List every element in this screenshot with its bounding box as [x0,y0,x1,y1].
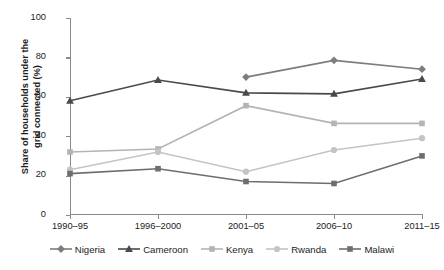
x-tick-label: 2006–10 [294,221,374,231]
data-point-rwanda [331,147,337,153]
legend-label: Malawi [364,244,394,255]
legend-item-cameroon[interactable]: Cameroon [118,243,188,255]
series-lines [70,18,422,215]
legend-label: Cameroon [143,244,188,255]
data-point-malawi [243,179,249,185]
data-point-cameroon [418,75,426,82]
legend-item-malawi[interactable]: Malawi [339,243,394,255]
legend-item-rwanda[interactable]: Rwanda [266,243,326,255]
data-point-cameroon [154,76,162,83]
y-tick-label: 100 [22,12,46,22]
chart-figure: Share of households under the grid conne… [0,0,444,270]
data-point-malawi [155,166,161,172]
data-point-kenya [67,149,73,155]
series-line-rwanda [70,138,422,171]
y-tick-label: 40 [22,130,46,140]
x-tick-label: 1990–95 [30,221,110,231]
y-tick-label: 0 [22,209,46,219]
chart-legend: NigeriaCameroonKenyaRwandaMalawi [0,243,444,255]
legend-item-kenya[interactable]: Kenya [201,243,253,255]
y-tick-label: 80 [22,51,46,61]
legend-key-triangle-icon [118,243,140,255]
data-point-kenya [243,103,249,109]
legend-key-diamond-icon [50,243,72,255]
data-point-nigeria [242,73,250,81]
legend-key-square-icon [201,243,223,255]
x-tick-label: 1996–2000 [118,221,198,231]
y-tick-label: 60 [22,90,46,100]
data-point-malawi [67,171,73,177]
data-point-kenya [419,121,425,127]
data-point-malawi [419,153,425,159]
legend-key-circle-icon [266,243,288,255]
data-point-rwanda [419,135,425,141]
legend-item-nigeria[interactable]: Nigeria [50,243,105,255]
x-tick-label: 2011–15 [382,221,444,231]
data-point-rwanda [243,169,249,175]
legend-label: Rwanda [291,244,326,255]
x-tick-mark [422,214,423,219]
x-tick-label: 2001–05 [206,221,286,231]
plot-area: 020406080100 1990–951996–20002001–052006… [70,18,422,215]
data-point-nigeria [330,56,338,64]
legend-label: Kenya [226,244,253,255]
data-point-nigeria [418,65,426,73]
y-tick-label: 20 [22,169,46,179]
data-point-rwanda [155,149,161,155]
data-point-kenya [331,121,337,127]
legend-key-square-icon [339,243,361,255]
legend-label: Nigeria [75,244,105,255]
data-point-malawi [331,181,337,187]
